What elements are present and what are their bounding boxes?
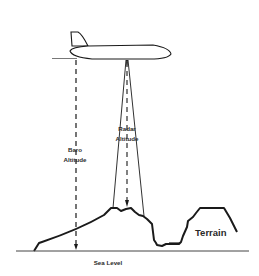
- baro-arrow-icon: [74, 244, 78, 250]
- baro-altitude-label-line2: Altitude: [63, 156, 87, 163]
- sea-level-label: Sea Level: [94, 259, 123, 266]
- altitude-diagram: Radar Altitude Baro Altitude Terrain Sea…: [0, 0, 259, 276]
- airplane-fuselage: [70, 45, 171, 59]
- radar-arrow-icon: [125, 200, 129, 207]
- baro-altitude-label-line1: Baro: [68, 146, 82, 153]
- radar-altitude-label-line2: Altitude: [115, 135, 139, 142]
- airplane-tail: [71, 32, 88, 46]
- terrain-label: Terrain: [195, 227, 227, 238]
- airplane-icon: [70, 32, 171, 59]
- radar-altitude-label-line1: Radar: [118, 125, 136, 132]
